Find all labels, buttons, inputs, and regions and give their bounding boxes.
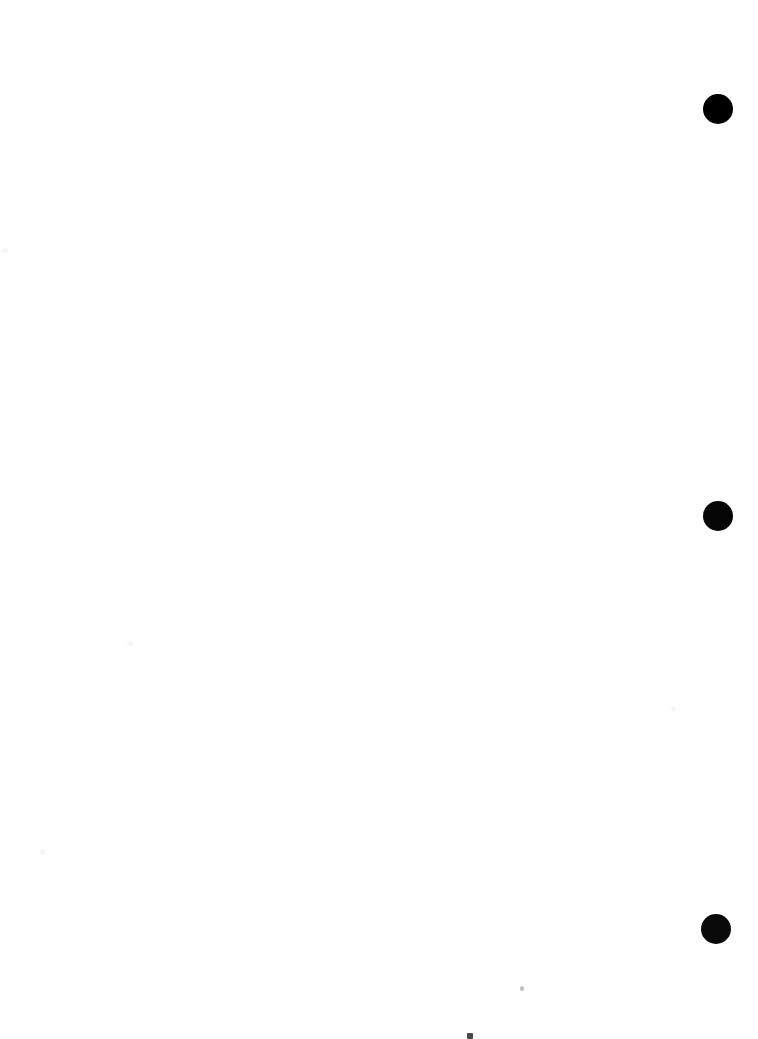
page-canvas [0,0,758,1039]
bullet-dot-2 [703,501,733,531]
bullet-dot-1 [703,94,733,124]
speck-5 [520,986,524,991]
marks-layer [0,0,758,1039]
speck-3 [671,706,676,711]
speck-4 [40,849,45,855]
speck-6 [467,1033,473,1039]
speck-2 [127,641,133,646]
bullet-dot-3 [701,914,731,944]
speck-1 [1,248,8,253]
